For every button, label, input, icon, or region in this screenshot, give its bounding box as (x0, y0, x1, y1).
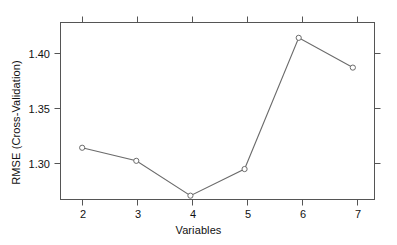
x-tick-label-1: 2 (68, 208, 98, 220)
data-point (134, 158, 139, 163)
x-tick-label-6: 7 (343, 208, 373, 220)
x-axis-title: Variables (0, 224, 397, 236)
x-tick-label-3: 4 (178, 208, 208, 220)
x-tick-label-5: 6 (288, 208, 318, 220)
x-tick-label-4: 5 (233, 208, 263, 220)
y-tick-label-2: 1.35 (16, 103, 50, 115)
data-point (350, 65, 355, 70)
data-point (188, 193, 193, 198)
x-tick-label-2: 3 (123, 208, 153, 220)
chart-container: RMSE (Cross-Validation) Variables 1.30 1… (0, 0, 397, 245)
y-axis-title: RMSE (Cross-Validation) (6, 0, 26, 245)
y-tick-label-3: 1.40 (16, 48, 50, 60)
data-point (242, 166, 247, 171)
y-tick-label-1: 1.30 (16, 158, 50, 170)
data-point (80, 145, 85, 150)
data-point (296, 35, 301, 40)
